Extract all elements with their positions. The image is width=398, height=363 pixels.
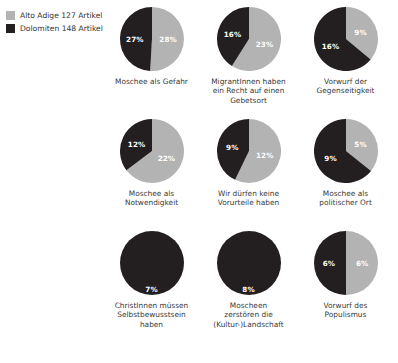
pie-percent-dolomiten: 7%	[145, 284, 157, 293]
pie-caption-line: Selbstbewusstsein	[117, 310, 185, 319]
pie-percent-dolomiten: 16%	[322, 42, 340, 51]
pie-chart-cell: 23%16%MigrantInnen habenein Recht auf ei…	[200, 6, 297, 118]
pie-caption-line: Moschee als	[129, 189, 174, 198]
pie-caption: Wir dürfen keineVorurteile haben	[201, 189, 296, 208]
pie-chart-cell: 9%16%Vorwurf derGegenseitigkeit	[297, 6, 394, 118]
legend-swatch-alto-adige	[6, 11, 15, 20]
pie-caption-line: Vorwurf des	[324, 301, 368, 310]
pie-chart: 22%12%	[119, 118, 185, 184]
pie-chart-cell: 5%9%Moschee alspolitischer Ort	[297, 118, 394, 228]
pie-caption: ChristInnen müssenSelbstbewusstseinhaben	[104, 301, 199, 329]
pie-chart: 12%9%	[216, 118, 282, 184]
pie-chart-cell: 28%27%Moschee als Gefahr	[103, 6, 200, 118]
pie-chart: 8%	[216, 230, 282, 296]
legend-label-alto-adige: Alto Adige 127 Artikel	[20, 11, 102, 20]
pie-caption-line: Notwendigkeit	[125, 198, 178, 207]
pie-caption-line: ein Recht auf einen	[213, 86, 285, 95]
pie-caption-line: Vorurteile haben	[218, 198, 279, 207]
pie-caption: Moschee als Gefahr	[104, 77, 199, 86]
pie-percent-dolomiten: 16%	[224, 30, 242, 39]
pie-caption-line: zerstören die	[224, 310, 272, 319]
pie-chart: 6%6%	[313, 230, 379, 296]
pie-percent-dolomiten: 27%	[126, 34, 144, 43]
pie-chart: 28%27%	[119, 6, 185, 72]
pie-caption-line: Moscheen	[230, 301, 267, 310]
legend-label-dolomiten: Dolomiten 148 Artikel	[20, 24, 103, 33]
pie-caption-line: Wir dürfen keine	[218, 189, 279, 198]
pie-percent-dolomiten: 8%	[242, 284, 254, 293]
pie-chart-cell: 12%9%Wir dürfen keineVorurteile haben	[200, 118, 297, 228]
pie-caption-line: haben	[140, 320, 163, 329]
pie-percent-alto-adige: 9%	[354, 27, 366, 36]
pie-caption-line: Populismus	[325, 310, 367, 319]
pie-caption-line: ChristInnen müssen	[115, 301, 189, 310]
pie-caption-line: (Kultur-)Landschaft	[213, 320, 283, 329]
pie-caption-line: Gebetsort	[230, 96, 267, 105]
pie-chart-grid: 28%27%Moschee als Gefahr23%16%MigrantInn…	[103, 6, 395, 363]
pie-percent-dolomiten: 6%	[323, 259, 335, 268]
pie-percent-alto-adige: 28%	[159, 35, 177, 44]
pie-percent-dolomiten: 9%	[226, 143, 238, 152]
pie-chart-cell: 6%6%Vorwurf desPopulismus	[297, 228, 394, 363]
pie-caption-line: politischer Ort	[319, 198, 372, 207]
pie-percent-alto-adige: 5%	[354, 139, 366, 148]
pie-chart-cell: 22%12%Moschee alsNotwendigkeit	[103, 118, 200, 228]
pie-caption-line: Moschee als	[323, 189, 368, 198]
pie-chart: 23%16%	[216, 6, 282, 72]
pie-chart: 9%16%	[313, 6, 379, 72]
pie-caption: Moschee alspolitischer Ort	[298, 189, 393, 208]
pie-slices	[313, 118, 379, 184]
pie-chart-cell: 8%Moscheenzerstören die(Kultur-)Landscha…	[200, 228, 297, 363]
pie-caption-line: Moschee als Gefahr	[115, 77, 188, 86]
pie-percent-dolomiten: 9%	[324, 154, 336, 163]
pie-caption-line: Gegenseitigkeit	[317, 86, 375, 95]
pie-chart: 5%9%	[313, 118, 379, 184]
pie-caption: Vorwurf desPopulismus	[298, 301, 393, 320]
pie-caption: Moscheenzerstören die(Kultur-)Landschaft	[201, 301, 296, 329]
pie-chart: 7%	[119, 230, 185, 296]
pie-percent-alto-adige: 23%	[256, 39, 274, 48]
pie-percent-alto-adige: 6%	[356, 259, 368, 268]
pie-caption: Vorwurf derGegenseitigkeit	[298, 77, 393, 96]
pie-caption: MigrantInnen habenein Recht auf einenGeb…	[201, 77, 296, 105]
pie-caption: Moschee alsNotwendigkeit	[104, 189, 199, 208]
pie-percent-alto-adige: 12%	[256, 150, 274, 159]
pie-slices	[313, 6, 379, 72]
pie-slices	[119, 118, 185, 184]
pie-percent-dolomiten: 12%	[128, 139, 146, 148]
legend-swatch-dolomiten	[6, 24, 15, 33]
pie-chart-cell: 7%ChristInnen müssenSelbstbewusstseinhab…	[103, 228, 200, 363]
pie-percent-alto-adige: 22%	[158, 154, 176, 163]
pie-caption-line: Vorwurf der	[324, 77, 367, 86]
pie-caption-line: MigrantInnen haben	[211, 77, 286, 86]
